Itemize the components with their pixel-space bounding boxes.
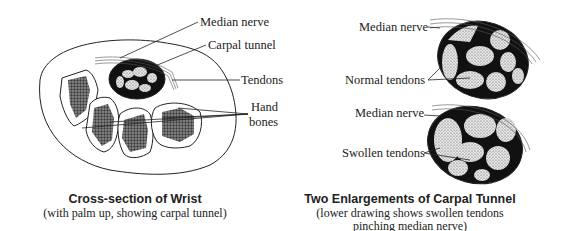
right-caption-subtitle-1: (lower drawing shows swollen tendons: [285, 206, 535, 220]
swollen-tunnel-drawing: [419, 96, 531, 194]
label-hand-bones-2: bones: [249, 115, 278, 129]
normal-tunnel-drawing: [428, 10, 540, 111]
left-caption-title: Cross-section of Wrist: [40, 192, 230, 206]
label-carpal-tunnel: Carpal tunnel: [208, 38, 276, 52]
label-hand-bones-1: Hand: [251, 100, 278, 114]
label-tendons: Tendons: [241, 73, 283, 87]
right-caption-title: Two Enlargements of Carpal Tunnel: [285, 192, 535, 206]
label-upper-median-nerve: Median nerve: [359, 20, 428, 34]
label-lower-median-nerve: Median nerve: [355, 106, 424, 120]
label-swollen-tendons: Swollen tendons: [342, 146, 425, 160]
right-caption-subtitle-2: pinching median nerve): [285, 219, 535, 231]
left-caption-subtitle: (with palm up, showing carpal tunnel): [20, 206, 250, 220]
label-normal-tendons: Normal tendons: [345, 73, 425, 87]
label-median-nerve: Median nerve: [200, 15, 269, 29]
